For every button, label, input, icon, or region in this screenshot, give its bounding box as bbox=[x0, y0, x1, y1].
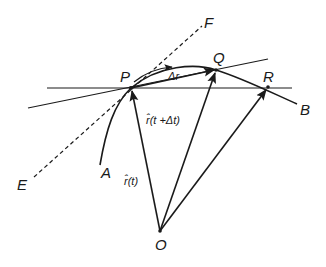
vector-r-to-R bbox=[160, 90, 266, 231]
label-a: A bbox=[100, 164, 111, 181]
label-delta-r: Δr bbox=[167, 70, 180, 82]
label-p: P bbox=[120, 68, 130, 85]
label-r-t: r̂(t) bbox=[124, 174, 138, 187]
point-o bbox=[158, 229, 162, 233]
point-p bbox=[129, 86, 133, 90]
label-e: E bbox=[17, 176, 28, 193]
label-f: F bbox=[204, 14, 214, 31]
vector-r-t-dt bbox=[160, 73, 215, 231]
label-o: O bbox=[155, 236, 167, 253]
point-r bbox=[266, 85, 270, 89]
label-q: Q bbox=[213, 49, 225, 66]
point-q bbox=[214, 68, 218, 72]
label-r: R bbox=[263, 68, 274, 85]
label-r-t-dt: r̂(t +Δt) bbox=[146, 113, 180, 126]
label-b: B bbox=[300, 101, 310, 118]
kinematics-diagram: P Q R O A B E F Δr r̂(t +Δt) r̂(t) bbox=[0, 0, 326, 267]
vector-r-t bbox=[132, 91, 160, 231]
